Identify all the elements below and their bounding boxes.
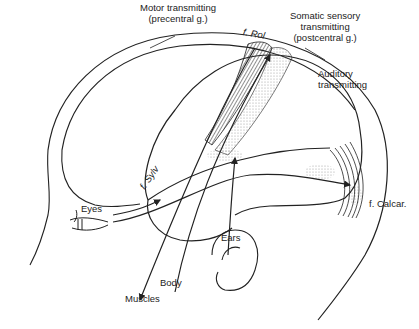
auditory-transmitting-label: Auditory transmitting xyxy=(318,68,367,90)
diagram-drawing xyxy=(0,0,419,329)
brain-pathways-diagram: Motor transmitting (precentral g.) Somat… xyxy=(0,0,419,329)
auditory-label-line2: transmitting xyxy=(318,79,367,90)
fissure-calcarine-label: f. Calcar. xyxy=(369,198,407,209)
muscles-label: Muscles xyxy=(125,293,160,304)
auditory-area xyxy=(207,149,243,161)
somatic-label-line1: Somatic sensory xyxy=(290,10,360,21)
ears-label: Ears xyxy=(221,232,241,243)
body-label: Body xyxy=(160,277,182,288)
motor-transmitting-label: Motor transmitting (precentral g.) xyxy=(140,2,216,24)
motor-label-line2: (precentral g.) xyxy=(140,13,216,24)
occipital-striations xyxy=(330,142,363,218)
motor-label-line1: Motor transmitting xyxy=(140,2,216,13)
auditory-label-line1: Auditory xyxy=(318,68,367,79)
somatic-sensory-label: Somatic sensory transmitting (postcentra… xyxy=(290,10,360,43)
somatic-label-line3: (postcentral g.) xyxy=(290,32,360,43)
eyes-label: Eyes xyxy=(81,203,102,214)
somatic-label-line2: transmitting xyxy=(290,21,360,32)
